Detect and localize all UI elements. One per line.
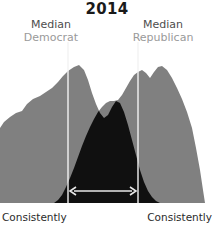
polarization-chart-figure: 2014 Median Democrat Median Republican C… [0,0,214,225]
axis-label-left: Consistently [2,211,67,224]
distribution-plot [0,0,214,225]
axis-label-right: Consistently [147,211,212,224]
